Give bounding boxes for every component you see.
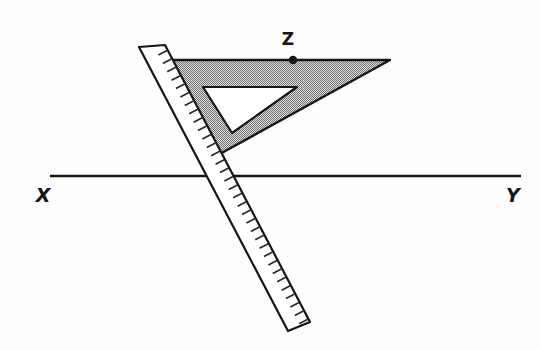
label-x: X [35, 184, 52, 206]
label-z: Z [282, 29, 294, 49]
diagram-svg: Z X Y [0, 0, 540, 350]
label-y: Y [506, 184, 522, 206]
point-z-dot [289, 56, 297, 64]
figure-canvas: Z X Y [0, 0, 540, 350]
